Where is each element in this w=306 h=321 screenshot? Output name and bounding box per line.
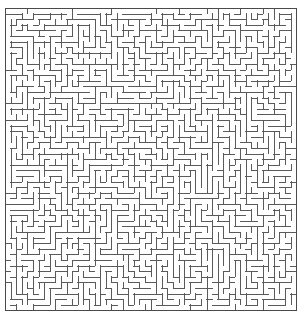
maze-figure (0, 0, 306, 321)
maze-diagram (0, 0, 306, 321)
